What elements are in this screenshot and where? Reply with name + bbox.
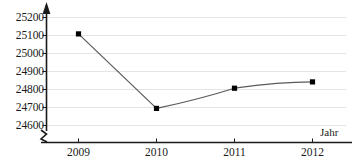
xtick-label-2012: 2012 <box>290 147 336 158</box>
xtick-label-2010: 2010 <box>134 147 180 158</box>
gridlines <box>46 18 346 126</box>
xtick-label-2009: 2009 <box>56 147 102 158</box>
ytick-label-25200: 25200 <box>0 12 44 24</box>
ytick-label-24700: 24700 <box>0 102 44 114</box>
xtick-label-2011: 2011 <box>212 147 258 158</box>
data-point-2012 <box>310 79 315 84</box>
ytick-label-24600: 24600 <box>0 120 44 132</box>
ytick-label-24900: 24900 <box>0 66 44 78</box>
data-point-2009 <box>76 31 81 36</box>
ytick-label-25100: 25100 <box>0 30 44 42</box>
chart-canvas <box>0 0 354 158</box>
line-chart: 25200 25100 25000 24900 24800 24700 2460… <box>0 0 354 158</box>
ytick-label-24800: 24800 <box>0 84 44 96</box>
x-axis-label: Jahr <box>320 127 338 138</box>
data-point-2011 <box>232 86 237 91</box>
y-axis-break-icon <box>41 130 47 142</box>
data-point-2010 <box>154 106 159 111</box>
ytick-label-25000: 25000 <box>0 48 44 60</box>
